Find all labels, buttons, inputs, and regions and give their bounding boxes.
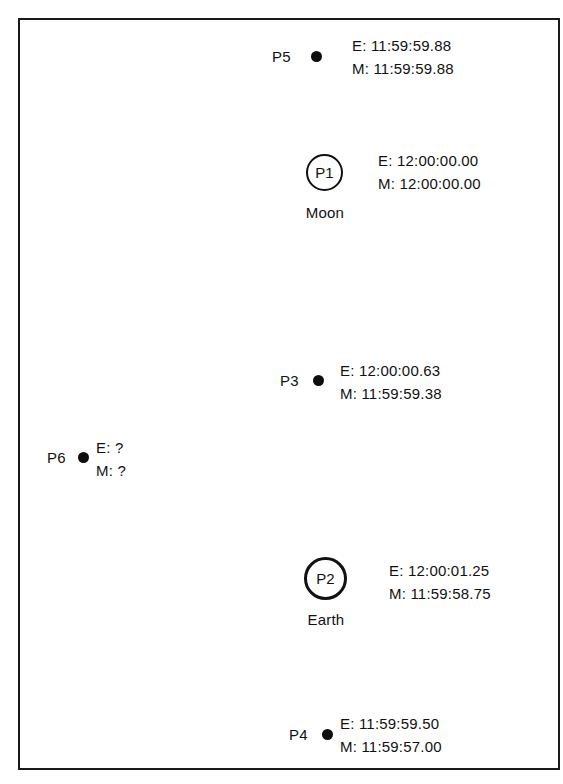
node-p3-moon-clock: M: 11:59:59.38: [340, 383, 442, 406]
node-p4-moon-clock: M: 11:59:57.00: [340, 736, 442, 759]
node-p5-label: P5: [272, 49, 291, 64]
node-p3-clock-block: E: 12:00:00.63 M: 11:59:59.38: [340, 360, 442, 405]
node-p5-marker-dot: [311, 51, 322, 62]
node-p1-earth-clock: E: 12:00:00.00: [378, 150, 481, 173]
node-p1-clock-block: E: 12:00:00.00 M: 12:00:00.00: [378, 150, 481, 195]
node-p5-moon-clock: M: 11:59:59.88: [352, 58, 454, 81]
node-p6-moon-clock: M: ?: [96, 460, 126, 483]
node-p4-clock-block: E: 11:59:59.50 M: 11:59:57.00: [340, 713, 442, 758]
diagram-canvas: P5 E: 11:59:59.88 M: 11:59:59.88 P1 Moon…: [0, 0, 563, 784]
figure-border: [18, 18, 560, 770]
node-p2-earth-clock: E: 12:00:01.25: [389, 560, 491, 583]
node-p3-earth-clock: E: 12:00:00.63: [340, 360, 442, 383]
node-p2-body-name: Earth: [297, 612, 355, 627]
node-p2-label: P2: [316, 571, 335, 586]
node-p3-marker-dot: [313, 375, 324, 386]
node-p2-moon-clock: M: 11:59:58.75: [389, 583, 491, 606]
node-p1-moon-clock: M: 12:00:00.00: [378, 173, 481, 196]
node-p6-clock-block: E: ? M: ?: [96, 437, 126, 482]
node-p5-clock-block: E: 11:59:59.88 M: 11:59:59.88: [352, 35, 454, 80]
node-p2-clock-block: E: 12:00:01.25 M: 11:59:58.75: [389, 560, 491, 605]
node-p5-earth-clock: E: 11:59:59.88: [352, 35, 454, 58]
node-p4-earth-clock: E: 11:59:59.50: [340, 713, 442, 736]
node-p6-label: P6: [47, 450, 66, 465]
node-p4-label: P4: [289, 727, 308, 742]
node-p1-label: P1: [315, 165, 334, 180]
node-p1-marker-circle: P1: [306, 154, 343, 191]
node-p2-marker-circle: P2: [304, 557, 347, 600]
node-p6-earth-clock: E: ?: [96, 437, 126, 460]
node-p3-label: P3: [280, 373, 299, 388]
node-p1-body-name: Moon: [297, 205, 353, 220]
node-p4-marker-dot: [322, 729, 333, 740]
node-p6-marker-dot: [78, 452, 89, 463]
